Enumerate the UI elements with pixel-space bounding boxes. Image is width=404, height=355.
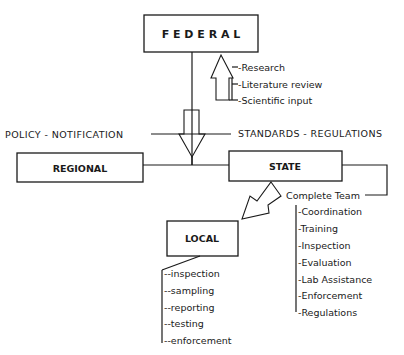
complete-team-label: Complete Team [286, 190, 360, 201]
state-node: STATE [229, 151, 342, 181]
local-item-reporting: --reporting [164, 302, 215, 313]
team-item-coordination: -Coordination [298, 206, 362, 217]
team-item-inspection: -Inspection [298, 240, 351, 251]
federal-inputs-list: -Research -Literature review -Scientific… [238, 62, 323, 106]
local-item-inspection: --inspection [164, 268, 220, 279]
team-item-lab-assistance: -Lab Assistance [298, 274, 372, 285]
team-item-training: -Training [298, 223, 338, 234]
local-node: LOCAL [167, 221, 238, 256]
input-scientific-input: -Scientific input [238, 95, 312, 106]
federal-node: F E D E R A L [144, 15, 258, 52]
team-item-evaluation: -Evaluation [298, 257, 352, 268]
state-label: STATE [269, 161, 301, 172]
local-label: LOCAL [185, 233, 219, 244]
local-task-list: --inspection --sampling --reporting --te… [164, 268, 232, 346]
standards-regulations-label: STANDARDS - REGULATIONS [238, 128, 382, 139]
regional-label: REGIONAL [53, 163, 108, 174]
up-arrow-icon [211, 55, 233, 100]
team-item-regulations: -Regulations [298, 307, 357, 318]
input-research: -Research [238, 62, 285, 73]
team-item-enforcement: -Enforcement [298, 290, 362, 301]
local-item-enforcement: --enforcement [164, 335, 232, 346]
hierarchy-diagram: F E D E R A L -Research -Literature revi… [0, 0, 404, 355]
state-team-list: -Coordination -Training -Inspection -Eva… [298, 206, 372, 318]
local-item-testing: --testing [164, 318, 204, 329]
policy-notification-label: POLICY - NOTIFICATION [5, 129, 123, 140]
federal-label: F E D E R A L [162, 28, 241, 41]
input-literature-review: -Literature review [238, 79, 323, 90]
local-item-sampling: --sampling [164, 285, 214, 296]
regional-node: REGIONAL [17, 153, 143, 182]
state-to-local-arrow-icon [242, 182, 281, 219]
